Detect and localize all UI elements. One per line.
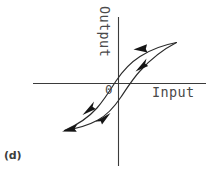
arrow-lower-right-icon	[96, 113, 111, 125]
panel-label: (d)	[4, 150, 21, 161]
origin-label: 0	[105, 84, 113, 97]
x-axis-label: Input	[152, 86, 195, 100]
y-axis-label: Output	[98, 6, 112, 57]
arrow-lower-left-icon	[83, 102, 96, 116]
hysteresis-figure: Output Input 0 (d)	[0, 0, 213, 172]
arrow-upper-left-icon	[134, 44, 148, 52]
